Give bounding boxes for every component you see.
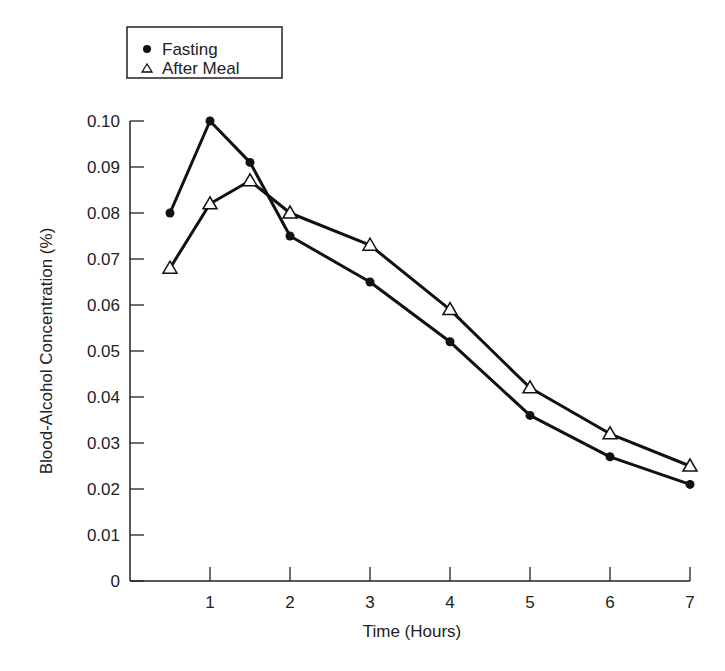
plot-area — [163, 117, 697, 489]
data-point-circle-icon — [686, 480, 695, 489]
legend-after-meal-label: After Meal — [162, 59, 239, 78]
data-point-circle-icon — [606, 452, 615, 461]
y-tick-label: 0 — [111, 572, 120, 591]
data-point-circle-icon — [206, 117, 215, 126]
y-tick-label: 0.01 — [87, 526, 120, 545]
data-point-circle-icon — [246, 158, 255, 167]
x-tick-label: 5 — [525, 593, 534, 612]
x-axis-title: Time (Hours) — [363, 622, 462, 641]
y-tick-label: 0.02 — [87, 480, 120, 499]
x-tick-label: 7 — [685, 593, 694, 612]
data-point-triangle-icon — [243, 174, 257, 186]
y-tick-label: 0.03 — [87, 434, 120, 453]
data-point-circle-icon — [526, 411, 535, 420]
y-tick-label: 0.07 — [87, 250, 120, 269]
x-axis-ticks: 1234567 — [205, 567, 694, 612]
axes: 00.010.020.030.040.050.060.070.080.090.1… — [37, 112, 695, 641]
y-tick-label: 0.04 — [87, 388, 120, 407]
y-tick-label: 0.09 — [87, 158, 120, 177]
x-tick-label: 1 — [205, 593, 214, 612]
after-meal-line — [170, 181, 690, 466]
legend-fasting-marker-icon — [143, 45, 151, 53]
y-axis-ticks: 00.010.020.030.040.050.060.070.080.090.1… — [87, 112, 144, 591]
data-point-circle-icon — [366, 278, 375, 287]
y-tick-label: 0.05 — [87, 342, 120, 361]
data-point-triangle-icon — [603, 427, 617, 439]
y-tick-label: 0.10 — [87, 112, 120, 131]
x-tick-label: 3 — [365, 593, 374, 612]
legend-fasting-label: Fasting — [162, 40, 218, 59]
y-tick-label: 0.08 — [87, 204, 120, 223]
line-chart: Fasting After Meal 00.010.020.030.040.05… — [0, 0, 725, 671]
series-fasting — [166, 117, 695, 489]
data-point-circle-icon — [166, 209, 175, 218]
data-point-circle-icon — [446, 337, 455, 346]
data-point-circle-icon — [286, 232, 295, 241]
data-point-triangle-icon — [203, 197, 217, 209]
series-after-meal — [163, 174, 697, 471]
x-tick-label: 2 — [285, 593, 294, 612]
y-axis-title: Blood-Alcohol Concentration (%) — [37, 228, 56, 475]
legend: Fasting After Meal — [127, 27, 282, 78]
x-tick-label: 4 — [445, 593, 454, 612]
y-tick-label: 0.06 — [87, 296, 120, 315]
x-tick-label: 6 — [605, 593, 614, 612]
